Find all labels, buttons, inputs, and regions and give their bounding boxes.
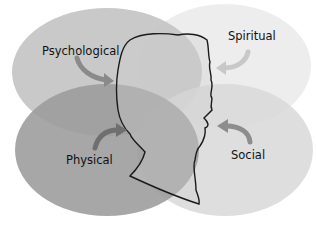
psychological-label: Psychological xyxy=(42,44,119,58)
social-label: Social xyxy=(231,148,265,162)
wellness-diagram: Psychological Spiritual Physical Social xyxy=(0,0,316,232)
physical-label: Physical xyxy=(66,153,113,167)
spiritual-label: Spiritual xyxy=(228,29,276,43)
